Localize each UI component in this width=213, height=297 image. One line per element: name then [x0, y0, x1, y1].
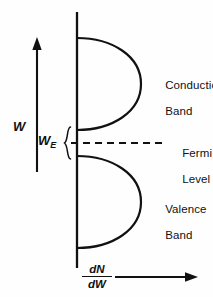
valence-band-label: Valence Band	[152, 190, 207, 254]
dndw-axis-label: dN dW	[82, 263, 112, 290]
dndw-axis-arrow	[115, 272, 198, 281]
energy-axis-arrow	[32, 37, 41, 172]
conduction-band-label-line1: Conduction	[165, 79, 213, 91]
valence-band-label-line2: Band	[165, 229, 192, 241]
band-diagram-figure: W WE Conduction Band Fermi Level Valence…	[0, 0, 213, 297]
fermi-energy-symbol: W	[38, 133, 50, 148]
fermi-energy-label: WE	[38, 134, 56, 150]
dndw-denominator: dW	[82, 278, 112, 290]
conduction-band-label: Conduction Band	[152, 66, 213, 130]
fermi-energy-subscript: E	[50, 140, 56, 150]
valence-band-label-line1: Valence	[165, 203, 206, 215]
fermi-level-label-line2: Level	[182, 173, 210, 185]
conduction-band-curve	[77, 38, 141, 130]
valence-band-curve	[77, 156, 141, 248]
fermi-energy-brace	[65, 127, 71, 159]
fermi-level-label: Fermi Level	[169, 134, 212, 198]
energy-axis-label: W	[13, 120, 25, 135]
dndw-numerator: dN	[82, 263, 112, 275]
conduction-band-label-line2: Band	[165, 105, 192, 117]
fermi-level-label-line1: Fermi	[182, 147, 212, 159]
